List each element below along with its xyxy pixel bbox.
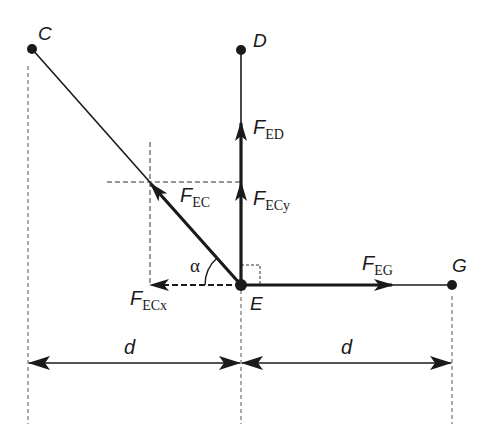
joint-g [447,280,457,290]
label-f-eg: FEG [362,252,393,278]
label-point-d: D [253,30,267,51]
angle-arc-alpha [205,258,217,285]
label-f-ecy: FECy [253,187,290,213]
label-angle-alpha: α [190,255,200,276]
label-dimension-left: d [124,336,136,358]
label-point-g: G [452,255,467,276]
label-point-c: C [38,23,52,44]
label-f-ed: FED [253,116,284,142]
joint-c [27,44,37,54]
label-dimension-right: d [341,336,353,358]
label-f-ec: FEC [180,184,210,210]
label-point-e: E [250,293,263,314]
joint-d [236,45,246,55]
label-f-ecx: FECx [130,287,167,313]
truss-joint-force-diagram: C D E G FED FEC FECy FECx FEG α d d [0,0,488,444]
joint-e [235,279,247,291]
